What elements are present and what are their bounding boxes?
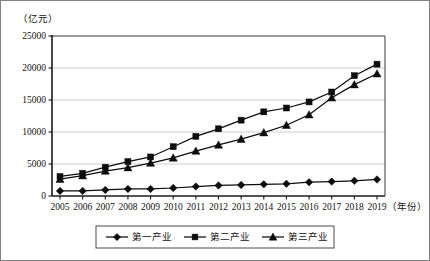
y-tick-label: 25000: [22, 31, 46, 41]
data-point-marker: [351, 73, 357, 79]
chart-canvas: 0500010000150002000025000（亿元）20052006200…: [0, 0, 430, 261]
x-tick-label: 2015: [277, 202, 296, 212]
legend-item-label: 第三产业: [288, 231, 328, 242]
x-tick-label: 2011: [187, 202, 206, 212]
y-tick-label: 5000: [27, 159, 46, 169]
y-tick-label: 0: [41, 191, 46, 201]
y-tick-label: 10000: [22, 127, 46, 137]
data-point-marker: [306, 99, 312, 105]
data-point-marker: [283, 105, 289, 111]
data-point-marker: [170, 144, 176, 150]
legend-item-label: 第二产业: [210, 231, 250, 242]
data-point-marker: [374, 61, 380, 67]
x-tick-label: 2019: [368, 202, 387, 212]
data-point-marker: [193, 133, 199, 139]
x-tick-label: 2007: [96, 202, 115, 212]
line-chart: 0500010000150002000025000（亿元）20052006200…: [0, 0, 430, 261]
x-tick-label: 2014: [254, 202, 273, 212]
x-tick-label: 2006: [73, 202, 92, 212]
x-axis-name-label: （年份）: [387, 201, 427, 212]
data-point-marker: [261, 109, 267, 115]
y-axis-unit-label: （亿元）: [18, 13, 58, 24]
x-tick-label: 2008: [118, 202, 137, 212]
x-tick-label: 2009: [141, 202, 160, 212]
data-point-marker: [216, 126, 222, 132]
x-tick-label: 2005: [51, 202, 70, 212]
data-point-marker: [238, 117, 244, 123]
x-tick-label: 2012: [209, 202, 228, 212]
y-tick-label: 15000: [22, 95, 46, 105]
x-tick-label: 2016: [300, 202, 319, 212]
x-tick-label: 2017: [322, 202, 341, 212]
legend-swatch-marker: [192, 234, 198, 240]
x-tick-label: 2018: [345, 202, 364, 212]
x-tick-label: 2010: [164, 202, 183, 212]
x-tick-label: 2013: [232, 202, 251, 212]
y-tick-label: 20000: [22, 63, 46, 73]
legend-item-label: 第一产业: [132, 231, 172, 242]
